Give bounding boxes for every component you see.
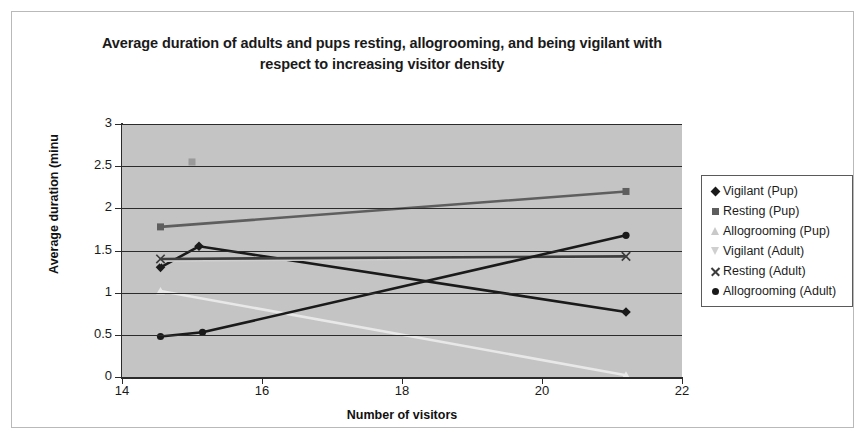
y-axis-tick-label: 2.5 xyxy=(82,157,112,172)
chart-frame: Average duration of adults and pups rest… xyxy=(11,11,854,428)
legend-item[interactable]: Resting (Adult) xyxy=(707,261,848,281)
y-axis-tick-label: 3 xyxy=(82,115,112,130)
x-axis-tick-label: 14 xyxy=(102,383,142,398)
data-point xyxy=(157,333,164,340)
diamond-marker-icon xyxy=(707,184,723,198)
y-axis-title: Average duration (minu xyxy=(47,89,61,319)
gridline xyxy=(122,166,682,167)
legend-item[interactable]: Vigilant (Adult) xyxy=(707,241,848,261)
gridline xyxy=(122,335,682,336)
gridline xyxy=(122,251,682,252)
y-axis-tick-label: 1.5 xyxy=(82,242,112,257)
x-axis-tick-label: 20 xyxy=(522,383,562,398)
gridline xyxy=(122,124,682,125)
legend-item[interactable]: Vigilant (Pup) xyxy=(707,181,848,201)
legend-item-label: Allogrooming (Pup) xyxy=(723,224,830,238)
chart-title-line-1: Average duration of adults and pups rest… xyxy=(102,35,576,51)
legend-item[interactable]: Resting (Pup) xyxy=(707,201,848,221)
x-axis-title: Number of visitors xyxy=(122,408,682,422)
x-axis-tick-label: 22 xyxy=(662,383,702,398)
data-point xyxy=(194,241,204,251)
circle-marker-icon xyxy=(707,284,723,298)
y-axis-tick-labels: 00.511.522.53 xyxy=(74,12,112,441)
gridline xyxy=(122,208,682,209)
data-point xyxy=(623,188,630,195)
series-line xyxy=(161,291,627,375)
legend-item[interactable]: Allogrooming (Pup) xyxy=(707,221,848,241)
series-resting-pup xyxy=(157,188,630,230)
chart-legend: Vigilant (Pup)Resting (Pup)Allogrooming … xyxy=(701,175,853,307)
x-axis-tick-label: 16 xyxy=(242,383,282,398)
x-axis-tick-label: 18 xyxy=(382,383,422,398)
y-axis-tick-label: 2 xyxy=(82,199,112,214)
legend-item-label: Resting (Pup) xyxy=(723,204,799,218)
series-allogrooming-adult xyxy=(157,232,630,340)
triangle-marker-icon xyxy=(707,224,723,238)
x-axis-line xyxy=(121,377,683,379)
data-point xyxy=(189,158,196,165)
gridline xyxy=(122,293,682,294)
legend-item-label: Vigilant (Adult) xyxy=(723,244,804,258)
legend-item-label: Allogrooming (Adult) xyxy=(723,284,836,298)
series-resting-adult xyxy=(156,252,630,263)
legend-item[interactable]: Allogrooming (Adult) xyxy=(707,281,848,301)
y-axis-tick-label: 0.5 xyxy=(82,326,112,341)
data-point xyxy=(622,232,629,239)
square-marker-icon xyxy=(707,204,723,218)
triangle-down-marker-icon xyxy=(707,244,723,258)
data-point xyxy=(621,307,631,317)
x-marker-icon xyxy=(707,264,723,278)
series-vigilant-pup xyxy=(156,241,631,316)
legend-item-label: Resting (Adult) xyxy=(723,264,806,278)
series-line xyxy=(161,191,627,226)
data-point xyxy=(157,223,164,230)
legend-item-label: Vigilant (Pup) xyxy=(723,184,798,198)
plot-area xyxy=(122,124,682,377)
y-axis-tick-label: 1 xyxy=(82,284,112,299)
y-axis-tick-label: 0 xyxy=(82,368,112,383)
chart-title: Average duration of adults and pups rest… xyxy=(82,33,682,75)
